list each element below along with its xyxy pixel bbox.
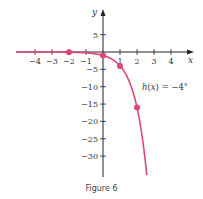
x-tick-label: 2 [134,57,139,66]
y-ticks: 5−5−10−15−20−25−30 [81,31,106,161]
x-tick-label: −2 [63,57,75,66]
y-tick-label: −10 [81,83,98,92]
y-tick-label: −25 [81,135,98,144]
data-point [134,105,140,111]
y-tick-label: −15 [81,100,98,109]
x-axis-arrow-icon [187,50,194,55]
y-axis-label: y [91,7,98,17]
x-tick-label: −4 [29,57,41,66]
function-label: h(x) = −4x [142,80,188,92]
y-tick-label: −5 [86,65,98,74]
figure-caption: Figure 6 [0,184,203,193]
function-exponent: x [184,80,188,87]
graph: −4−3−2−11234 5−5−10−15−20−25−30 x y h(x)… [0,0,203,199]
x-axis-label: x [188,55,193,65]
y-tick-label: −20 [81,117,98,126]
data-point [66,49,72,55]
x-tick-label: 4 [168,57,173,66]
y-tick-label: −30 [81,152,98,161]
x-tick-label: 3 [151,57,156,66]
data-point [117,63,123,69]
y-axis-arrow-icon [101,9,106,16]
x-tick-label: −3 [46,57,58,66]
y-tick-label: 5 [93,31,98,40]
data-point [100,52,106,58]
